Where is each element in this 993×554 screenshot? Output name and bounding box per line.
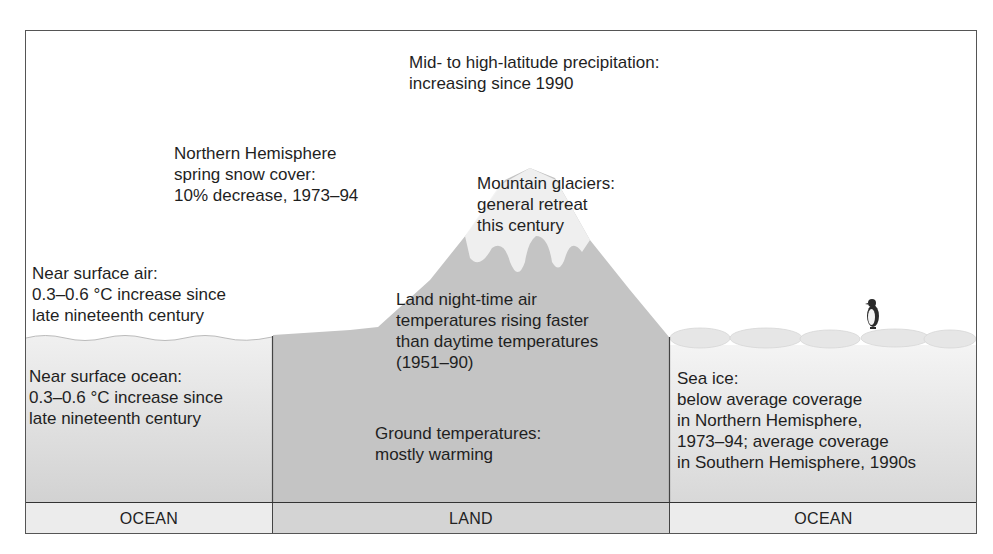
sea-ice-annotation: Sea ice: below average coverage in North…	[677, 368, 916, 473]
surface-air-annotation: Near surface air: 0.3–0.6 °C increase si…	[32, 263, 226, 326]
ground-temps-annotation: Ground temperatures: mostly warming	[375, 423, 541, 465]
footer-land: LAND	[273, 503, 669, 534]
precipitation-annotation: Mid- to high-latitude precipitation: inc…	[409, 52, 659, 94]
snow-cover-annotation: Northern Hemisphere spring snow cover: 1…	[174, 143, 358, 206]
footer-ocean-right: OCEAN	[670, 503, 977, 534]
night-temps-annotation: Land night-time air temperatures rising …	[396, 289, 598, 373]
glaciers-annotation: Mountain glaciers: general retreat this …	[477, 173, 615, 236]
surface-ocean-annotation: Near surface ocean: 0.3–0.6 °C increase …	[29, 366, 223, 429]
footer-ocean-left: OCEAN	[26, 503, 272, 534]
